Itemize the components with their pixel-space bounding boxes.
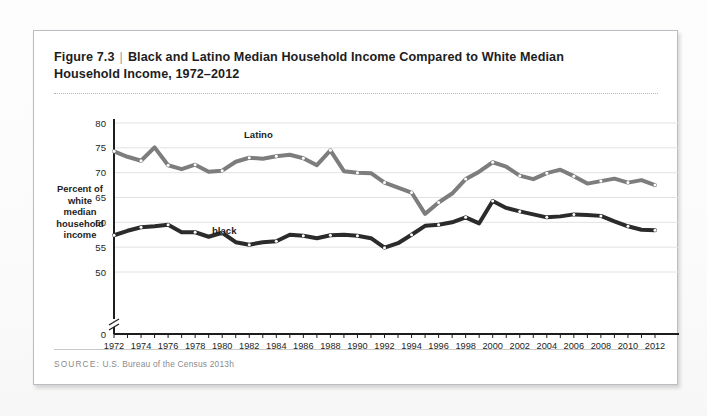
data-point-marker xyxy=(383,181,386,184)
y-tick-label-75: 75 xyxy=(95,142,106,153)
data-point-marker xyxy=(518,210,521,213)
y-axis-title-line-2: median xyxy=(42,206,118,218)
data-point-marker xyxy=(329,234,332,237)
data-point-marker xyxy=(572,175,575,178)
data-point-marker xyxy=(383,246,386,249)
y-axis-title-line-1: white xyxy=(42,195,118,207)
data-point-marker xyxy=(518,174,521,177)
data-point-marker xyxy=(356,234,359,237)
data-point-marker xyxy=(194,231,197,234)
data-point-marker xyxy=(545,172,548,175)
series-lines xyxy=(113,147,657,249)
data-point-marker xyxy=(491,161,494,164)
data-point-marker xyxy=(248,156,251,159)
data-point-marker xyxy=(437,201,440,204)
y-tick-label-70: 70 xyxy=(95,167,106,178)
line-chart-plot: 050556065707580 197219741976197819801982… xyxy=(34,31,679,386)
y-tick-label-55: 55 xyxy=(95,242,106,253)
data-point-marker xyxy=(329,149,332,152)
data-point-marker xyxy=(410,233,413,236)
data-point-marker xyxy=(599,180,602,183)
y-axis-title-line-4: income xyxy=(42,229,118,241)
data-point-marker xyxy=(248,243,251,246)
y-axis-title-line-0: Percent of xyxy=(42,183,118,195)
data-point-marker xyxy=(437,223,440,226)
data-point-marker xyxy=(654,184,657,187)
figure-card: Figure 7.3|Black and Latino Median House… xyxy=(33,30,678,385)
data-point-marker xyxy=(167,223,170,226)
y-tick-label-80: 80 xyxy=(95,118,106,129)
data-point-marker xyxy=(626,181,629,184)
y-tick-label-50: 50 xyxy=(95,267,106,278)
data-point-marker xyxy=(140,159,143,162)
source-label: SOURCE: xyxy=(54,359,100,369)
data-point-marker xyxy=(194,163,197,166)
data-point-marker xyxy=(654,229,657,232)
series-line-latino xyxy=(114,147,655,214)
gridlines xyxy=(114,123,679,272)
axis-lines xyxy=(109,119,679,334)
data-point-marker xyxy=(356,171,359,174)
data-point-marker xyxy=(572,213,575,216)
data-point-marker xyxy=(464,178,467,181)
data-point-marker xyxy=(626,225,629,228)
data-point-marker xyxy=(221,169,224,172)
source-text: U.S. Bureau of the Census 2013h xyxy=(103,359,234,369)
series-label-black: black xyxy=(212,225,237,236)
data-point-marker xyxy=(275,240,278,243)
data-point-marker xyxy=(545,216,548,219)
data-point-marker xyxy=(302,157,305,160)
y-axis-title: Percent ofwhitemedianhouseholdincome xyxy=(42,183,118,241)
data-point-marker xyxy=(140,226,143,229)
data-point-marker xyxy=(464,216,467,219)
data-point-marker xyxy=(113,150,116,153)
data-point-marker xyxy=(275,155,278,158)
series-label-latino: Latino xyxy=(244,129,273,140)
y-axis-title-line-3: household xyxy=(42,218,118,230)
data-point-marker xyxy=(491,199,494,202)
y-tick-label-0: 0 xyxy=(101,329,106,340)
data-point-marker xyxy=(599,214,602,217)
source-note: SOURCE: U.S. Bureau of the Census 2013h xyxy=(54,359,234,369)
series-line-black xyxy=(114,201,655,248)
chart-area: Percent ofwhitemedianhouseholdincome Lat… xyxy=(34,31,679,386)
data-point-marker xyxy=(410,191,413,194)
source-divider xyxy=(54,349,658,350)
data-point-marker xyxy=(302,234,305,237)
data-point-marker xyxy=(167,164,170,167)
